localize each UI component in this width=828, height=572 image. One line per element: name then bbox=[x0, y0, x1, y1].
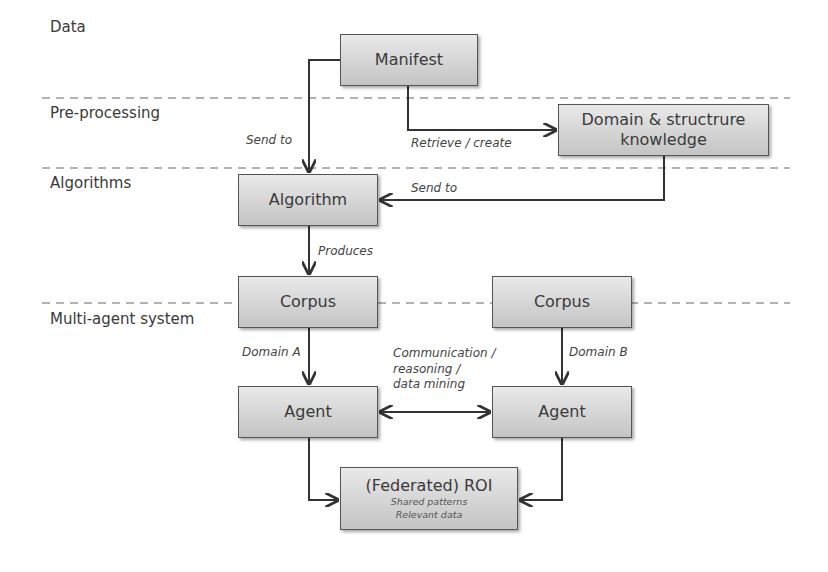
edge-label-domain-b: Domain B bbox=[569, 345, 628, 361]
node-domain-knowledge-line1: Domain & structrure bbox=[582, 110, 746, 130]
arrow-manifest-to-domain bbox=[408, 86, 556, 130]
edge-label-domain-a: Domain A bbox=[242, 345, 301, 361]
arrow-manifest-to-algorithm bbox=[309, 60, 340, 172]
lane-label-data: Data bbox=[50, 18, 86, 36]
node-agent-b-label: Agent bbox=[538, 402, 585, 422]
node-corpus-b: Corpus bbox=[492, 276, 632, 328]
edge-label-communication-line2: reasoning / bbox=[393, 362, 495, 378]
node-corpus-a: Corpus bbox=[238, 276, 378, 328]
node-domain-knowledge-line2: knowledge bbox=[620, 130, 707, 150]
node-roi-sub1: Shared patterns bbox=[391, 496, 468, 508]
node-agent-a-label: Agent bbox=[284, 402, 331, 422]
node-agent-a: Agent bbox=[238, 386, 378, 438]
node-agent-b: Agent bbox=[492, 386, 632, 438]
edge-label-communication-line3: data mining bbox=[393, 377, 495, 393]
edge-label-send-to-2: Send to bbox=[411, 181, 457, 197]
node-domain-knowledge: Domain & structrure knowledge bbox=[558, 104, 769, 156]
node-manifest-label: Manifest bbox=[375, 50, 443, 70]
node-corpus-a-label: Corpus bbox=[280, 292, 336, 312]
node-roi-label: (Federated) ROI bbox=[366, 476, 493, 496]
edge-label-send-to-1: Send to bbox=[246, 133, 292, 149]
edge-label-retrieve-create: Retrieve / create bbox=[411, 136, 512, 152]
node-algorithm: Algorithm bbox=[238, 174, 378, 226]
node-manifest: Manifest bbox=[340, 34, 478, 86]
node-roi-sub2: Relevant data bbox=[396, 509, 463, 521]
edge-label-communication-line1: Communication / bbox=[393, 346, 495, 362]
edge-label-produces: Produces bbox=[318, 244, 373, 260]
lane-label-multi-agent-system: Multi-agent system bbox=[50, 310, 194, 328]
node-corpus-b-label: Corpus bbox=[534, 292, 590, 312]
node-algorithm-label: Algorithm bbox=[269, 190, 347, 210]
node-federated-roi: (Federated) ROI Shared patterns Relevant… bbox=[340, 467, 518, 530]
lane-label-algorithms: Algorithms bbox=[50, 174, 131, 192]
lane-label-preprocessing: Pre-processing bbox=[50, 104, 160, 122]
arrow-agent-b-to-roi bbox=[520, 438, 562, 500]
arrow-agent-a-to-roi bbox=[309, 438, 338, 500]
edge-label-communication: Communication / reasoning / data mining bbox=[393, 346, 495, 393]
